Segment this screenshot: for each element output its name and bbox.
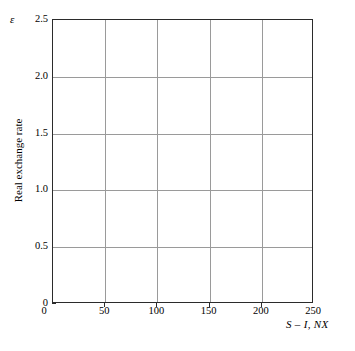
gridline-y-1-0 (53, 190, 312, 191)
y-tick-label-2-5: 2.5 (4, 14, 48, 25)
plot-area (52, 19, 313, 303)
gridline-y-2-0 (53, 77, 312, 78)
x-axis-title: S – I, NX (286, 319, 328, 330)
gridline-x-100 (157, 20, 158, 302)
gridline-y-1-5 (53, 134, 312, 135)
gridline-x-200 (262, 20, 263, 302)
y-tick-mark-0 (52, 303, 56, 304)
y-tick-label-1-5: 1.5 (4, 128, 48, 139)
y-axis-ticks: 2.5 2.0 1.5 1.0 0.5 0 (0, 0, 48, 351)
x-tick-label-150: 150 (189, 306, 229, 317)
gridline-x-50 (105, 20, 106, 302)
y-tick-label-2-0: 2.0 (4, 71, 48, 82)
x-tick-label-200: 200 (241, 306, 281, 317)
x-tick-label-100: 100 (136, 306, 176, 317)
x-tick-label-250: 250 (293, 306, 333, 317)
chart-figure: ε Real exchange rate 2.5 2.0 1.5 1.0 0.5… (0, 0, 355, 351)
x-tick-label-0: 0 (24, 306, 64, 317)
x-tick-label-50: 50 (84, 306, 124, 317)
y-tick-label-1-0: 1.0 (4, 184, 48, 195)
gridline-x-150 (210, 20, 211, 302)
y-tick-label-0-5: 0.5 (4, 241, 48, 252)
bottom-caption (14, 344, 344, 351)
gridline-y-0-5 (53, 247, 312, 248)
